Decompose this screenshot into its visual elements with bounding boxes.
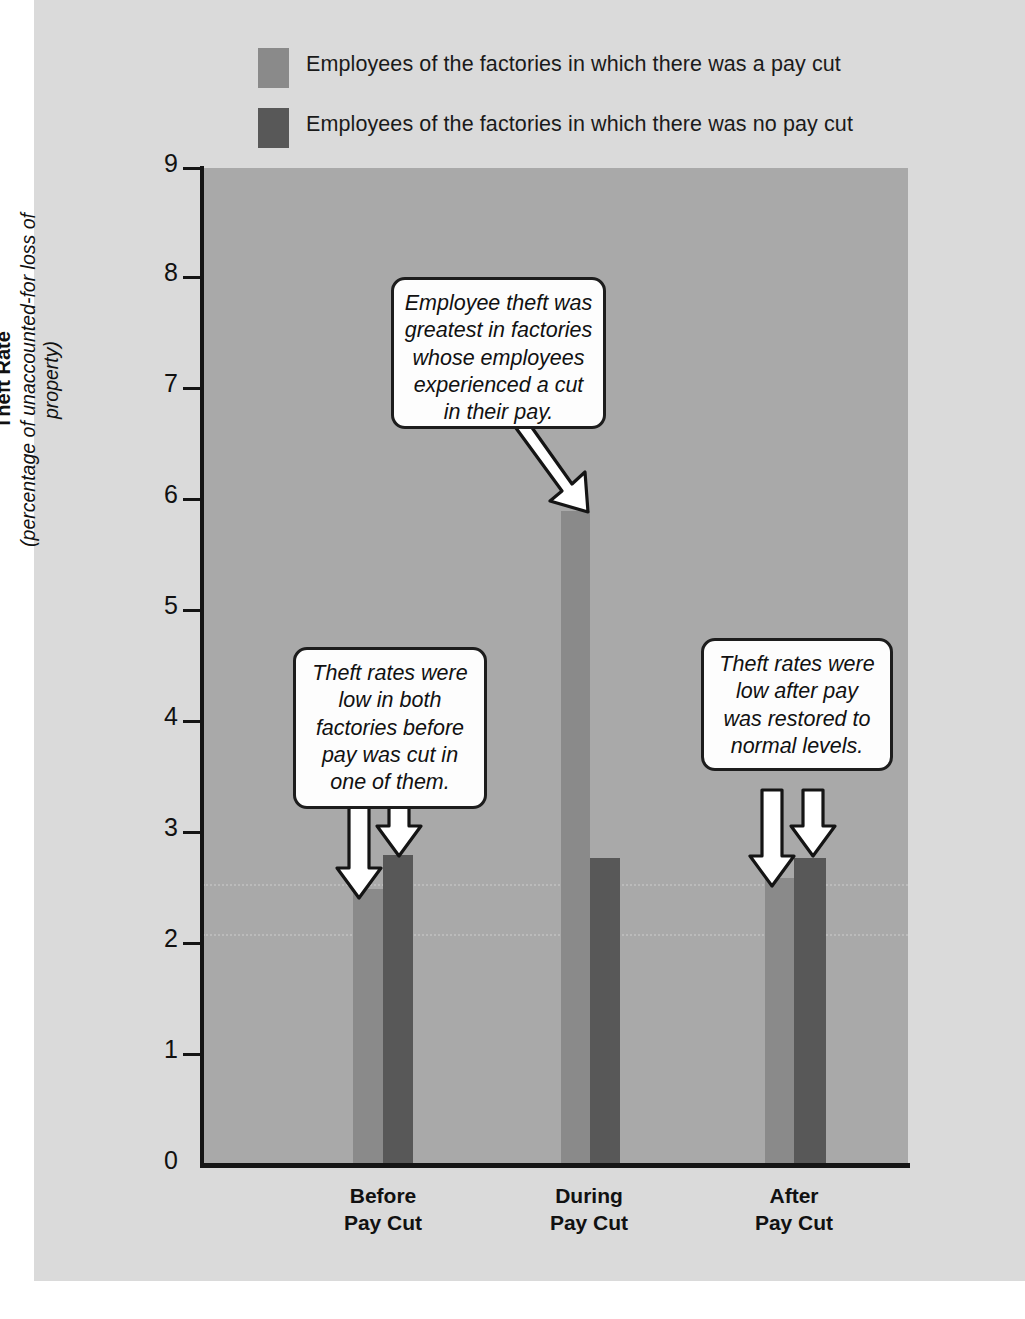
callout-after: Theft rates were low after pay was resto… xyxy=(701,638,893,771)
figure-root: Employees of the factories in which ther… xyxy=(0,0,1025,1319)
callout-during: Employee theft was greatest in factories… xyxy=(391,277,606,429)
callout-before: Theft rates were low in both factories b… xyxy=(293,647,487,809)
